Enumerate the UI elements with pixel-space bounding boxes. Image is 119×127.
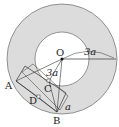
label-c: C	[44, 83, 52, 94]
right-angle-d	[37, 95, 40, 98]
label-d: D	[29, 95, 37, 106]
label-o: O	[56, 47, 64, 58]
label-inner-segment: 3a	[46, 67, 58, 78]
label-a: A	[4, 80, 13, 91]
label-side: a	[65, 101, 71, 112]
label-b: B	[53, 115, 60, 126]
label-outer-radius: 3a	[84, 46, 96, 57]
right-angle-c	[47, 79, 50, 82]
annulus-diagram: O 3a 3a A C D a B	[0, 0, 119, 127]
